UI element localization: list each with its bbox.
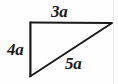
triangle-top-side [30,23,112,24]
side-label-left: 4a [7,41,24,58]
geometry-figure: 3a 4a 5a [0,0,118,84]
side-label-hypotenuse: 5a [65,55,82,72]
right-edge-divider [113,0,114,84]
side-label-top: 3a [51,3,68,20]
